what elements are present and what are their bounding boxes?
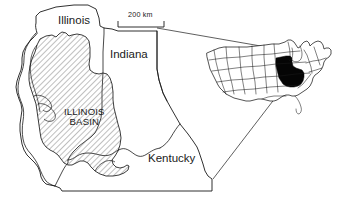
scale-bar-label: 200 km <box>128 11 153 19</box>
inset-us-map <box>207 40 331 114</box>
florida-peninsula <box>295 96 301 114</box>
state-label-kentucky: Kentucky <box>148 152 195 164</box>
connector-line-bottom <box>213 93 279 179</box>
illinois-basin-location-map: Illinois Indiana Kentucky ILLINOIS BASIN… <box>0 0 338 216</box>
state-label-indiana: Indiana <box>110 48 148 60</box>
basin-label: ILLINOIS BASIN <box>64 107 105 128</box>
scale-bar-group <box>118 21 164 27</box>
state-label-illinois: Illinois <box>58 14 90 26</box>
scale-bar <box>118 21 164 27</box>
basin-label-line2: BASIN <box>64 117 105 127</box>
map-graphic <box>0 0 338 216</box>
